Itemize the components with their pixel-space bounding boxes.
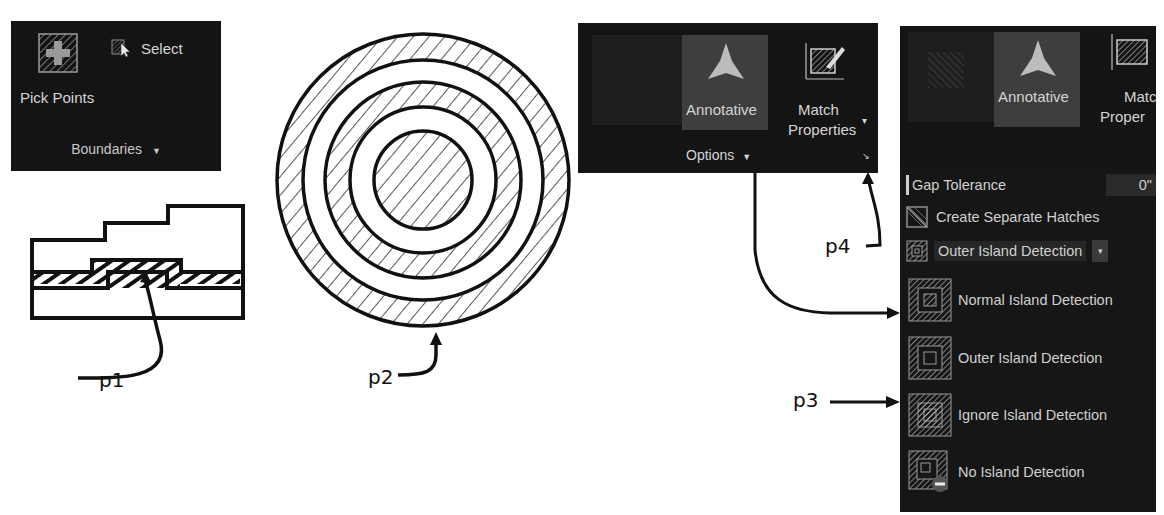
gap-tolerance-row: Gap Tolerance 0" — [906, 174, 1156, 196]
gap-tolerance-label: Gap Tolerance — [912, 177, 1006, 193]
options-panel: Annotative Match Properties ▾ Options ▼ … — [578, 23, 878, 173]
section-diagram — [0, 190, 260, 410]
concentric-circles-diagram — [270, 20, 580, 400]
gap-tolerance-slider[interactable] — [906, 175, 909, 195]
match-properties-button[interactable]: Matc Proper — [1096, 32, 1156, 132]
island-detection-dropdown[interactable]: Outer Island Detection ▾ — [906, 240, 1108, 262]
no-island-icon — [908, 450, 952, 494]
match-properties-line1: Match — [798, 101, 839, 118]
island-option-outer[interactable]: Outer Island Detection — [908, 336, 1102, 380]
dialog-launcher-icon[interactable]: ↘ — [862, 151, 870, 161]
annotative-icon — [708, 43, 744, 85]
chevron-down-icon: ▼ — [742, 152, 751, 162]
annotative-icon — [1020, 40, 1056, 82]
annotative-button[interactable]: Annotative — [994, 32, 1080, 127]
island-option-none[interactable]: No Island Detection — [908, 450, 1085, 494]
chevron-down-icon: ▼ — [152, 146, 161, 156]
island-selected-label: Outer Island Detection — [934, 241, 1086, 261]
chevron-down-icon[interactable]: ▾ — [862, 115, 867, 126]
normal-island-icon — [908, 278, 952, 322]
boundaries-dropdown[interactable]: Boundaries ▼ — [11, 141, 221, 157]
island-option-label: Normal Island Detection — [958, 292, 1113, 308]
island-option-label: No Island Detection — [958, 464, 1085, 480]
gap-tolerance-input[interactable]: 0" — [1106, 174, 1156, 196]
annotative-label: Annotative — [686, 101, 757, 118]
annotative-label: Annotative — [998, 88, 1069, 105]
boundaries-panel: Pick Points Select Boundaries ▼ — [11, 21, 221, 171]
outer-island-icon — [908, 336, 952, 380]
boundaries-label: Boundaries — [71, 141, 142, 157]
pick-points-label[interactable]: Pick Points — [20, 89, 94, 106]
island-option-label: Outer Island Detection — [958, 350, 1102, 366]
hatch-pattern-tile[interactable] — [592, 35, 682, 125]
ignore-island-icon — [908, 393, 952, 437]
expanded-options-panel: Annotative Matc Proper Gap Tolerance 0" … — [900, 26, 1156, 512]
options-label: Options — [686, 147, 734, 163]
outer-island-icon — [906, 240, 928, 262]
match-properties-icon — [1108, 32, 1154, 74]
match-partial-line1: Matc — [1124, 88, 1156, 105]
match-properties-line2: Properties — [788, 121, 856, 138]
create-separate-hatches-label: Create Separate Hatches — [936, 209, 1100, 225]
island-option-normal[interactable]: Normal Island Detection — [908, 278, 1113, 322]
callout-p2: p2 — [368, 365, 393, 389]
callout-p1: p1 — [99, 368, 124, 392]
select-button[interactable]: Select — [111, 37, 183, 59]
pick-points-icon[interactable] — [38, 33, 78, 73]
island-option-ignore[interactable]: Ignore Island Detection — [908, 393, 1107, 437]
hatch-pattern-tile[interactable] — [908, 32, 994, 122]
match-properties-icon — [802, 41, 848, 83]
callout-p3: p3 — [793, 388, 818, 412]
select-icon — [111, 38, 133, 58]
callout-p4: p4 — [825, 234, 850, 258]
hatch-swatch-icon — [928, 52, 964, 88]
match-partial-line2: Proper — [1100, 108, 1145, 125]
chevron-down-icon[interactable]: ▾ — [1092, 240, 1108, 262]
island-option-label: Ignore Island Detection — [958, 407, 1107, 423]
create-separate-hatches-button[interactable]: Create Separate Hatches — [906, 206, 1100, 228]
separate-hatches-icon — [906, 206, 928, 228]
match-properties-button[interactable]: Match Properties ▾ — [784, 35, 868, 140]
select-label: Select — [141, 40, 183, 57]
annotative-button[interactable]: Annotative — [682, 35, 768, 130]
ribbon-top: Annotative Matc Proper — [900, 26, 1156, 166]
options-dropdown[interactable]: Options ▼ — [686, 147, 751, 163]
